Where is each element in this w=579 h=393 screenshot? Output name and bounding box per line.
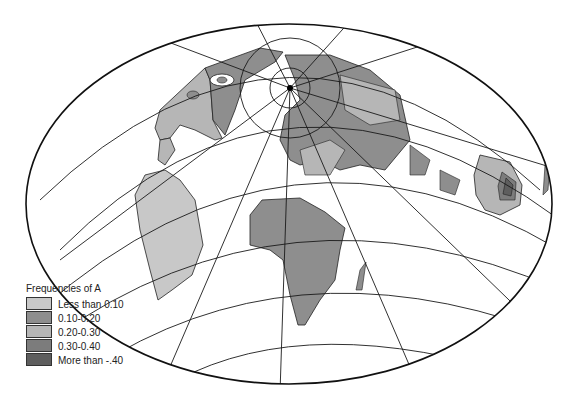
legend-item: 0.10-0.20 xyxy=(26,311,124,325)
legend-swatch xyxy=(26,339,52,352)
legend-swatch xyxy=(26,325,52,338)
legend-item: Less than 0.10 xyxy=(26,297,124,311)
legend-label: 0.10-0.20 xyxy=(58,313,100,324)
legend-item: 0.30-0.40 xyxy=(26,339,124,353)
legend: Frequencies of A Less than 0.10 0.10-0.2… xyxy=(26,283,124,367)
legend-swatch xyxy=(26,353,52,366)
legend-label: Less than 0.10 xyxy=(58,299,124,310)
north-pole-marker xyxy=(287,85,293,91)
legend-title: Frequencies of A xyxy=(26,283,124,294)
legend-label: More than -.40 xyxy=(58,355,123,366)
legend-item: More than -.40 xyxy=(26,353,124,367)
region-africa xyxy=(250,198,345,325)
legend-label: 0.30-0.40 xyxy=(58,341,100,352)
legend-label: 0.20-0.30 xyxy=(58,327,100,338)
legend-swatch xyxy=(26,297,52,310)
legend-swatch xyxy=(26,311,52,324)
legend-item: 0.20-0.30 xyxy=(26,325,124,339)
